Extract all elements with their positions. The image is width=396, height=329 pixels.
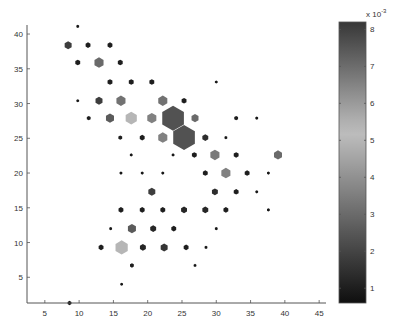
hexbin-marks <box>65 25 282 305</box>
hexbin-cell <box>182 98 187 104</box>
hexbin-cell <box>158 132 167 142</box>
hexbin-cell <box>147 113 156 123</box>
colorbar-scale-exponent: -3 <box>381 8 387 14</box>
x-tick-label: 40 <box>280 309 289 318</box>
hexbin-cell <box>212 188 218 195</box>
hexbin-cell <box>130 153 133 156</box>
colorbar-tick-label: 3 <box>370 210 375 219</box>
y-tick-label: 5 <box>19 273 24 282</box>
hexbin-cell <box>162 106 184 131</box>
hexbin-cell <box>234 152 239 158</box>
x-tick-label: 10 <box>75 309 84 318</box>
colorbar-scale-base: x 10 <box>366 10 382 19</box>
hexbin-cell <box>108 79 113 85</box>
y-tick-label: 10 <box>14 239 23 248</box>
hexbin-cell <box>96 97 103 105</box>
hexbin-cell <box>128 224 136 233</box>
hexbin-cell <box>150 225 156 232</box>
hexbin-cell <box>129 79 134 85</box>
hexbin-cell <box>161 171 164 174</box>
hexbin-cell <box>224 136 227 139</box>
colorbar: 12345678 x 10-3 <box>339 8 387 303</box>
hexbin-cell <box>65 41 72 49</box>
hexbin-cell <box>119 207 124 213</box>
hexbin-cell <box>161 243 168 251</box>
hexbin-cell <box>181 206 187 213</box>
colorbar-tick-label: 6 <box>370 99 375 108</box>
colorbar-gradient <box>339 22 366 303</box>
x-tick-label: 5 <box>43 309 48 318</box>
hexbin-cell <box>192 114 199 122</box>
hexbin-cell <box>173 125 195 150</box>
hexbin-cell <box>245 170 250 176</box>
x-tick-label: 35 <box>246 309 255 318</box>
hexbin-cell <box>149 79 154 85</box>
plot-area: 51015202530354045 510152025303540 <box>14 25 326 318</box>
hexbin-cell <box>172 153 175 156</box>
hexbin-cell <box>140 207 145 213</box>
hexbin-cell <box>140 135 145 141</box>
hexbin-cell <box>184 245 189 251</box>
hexbin-cell <box>192 152 197 158</box>
hexbin-cell <box>120 171 123 174</box>
hexbin-cell <box>130 263 134 267</box>
hexbin-cell <box>215 227 218 230</box>
hexbin-cell <box>202 206 208 213</box>
x-tick-label: 25 <box>178 309 187 318</box>
y-tick-label: 40 <box>14 30 23 39</box>
hexbin-cell <box>108 42 113 48</box>
hexbin-cell <box>205 246 208 249</box>
hexbin-cell <box>126 112 137 125</box>
hexbin-cell <box>274 150 282 159</box>
hexbin-cell <box>160 207 165 213</box>
hexbin-cell <box>221 168 230 178</box>
colorbar-scale-label: x 10-3 <box>366 8 387 19</box>
x-tick-label: 45 <box>315 309 324 318</box>
hexbin-cell <box>203 170 208 176</box>
x-tick-label: 15 <box>109 309 118 318</box>
colorbar-tick-label: 2 <box>370 247 375 256</box>
hexbin-cell <box>234 116 238 120</box>
hexbin-chart: 51015202530354045 510152025303540 123456… <box>0 0 396 329</box>
y-ticks: 510152025303540 <box>14 30 30 282</box>
hexbin-cell <box>118 60 123 66</box>
hexbin-cell <box>94 57 103 67</box>
hexbin-cell <box>120 283 123 286</box>
hexbin-cell <box>194 264 197 267</box>
x-tick-label: 30 <box>212 309 221 318</box>
hexbin-cell <box>267 208 270 211</box>
hexbin-cell <box>141 171 144 174</box>
colorbar-tick-label: 5 <box>370 136 375 145</box>
hexbin-cell <box>148 188 155 196</box>
hexbin-cell <box>116 240 128 254</box>
hexbin-cell <box>158 96 167 106</box>
y-tick-label: 20 <box>14 169 23 178</box>
hexbin-cell <box>76 99 79 102</box>
hexbin-cell <box>76 25 79 28</box>
hexbin-cell <box>118 135 122 139</box>
hexbin-cell <box>255 117 258 120</box>
hexbin-cell <box>99 245 104 251</box>
colorbar-tick-label: 7 <box>370 62 375 71</box>
hexbin-cell <box>215 80 218 83</box>
hexbin-cell <box>202 134 208 141</box>
hexbin-cell <box>234 189 239 195</box>
colorbar-tick-label: 1 <box>370 284 375 293</box>
y-tick-label: 30 <box>14 100 23 109</box>
hexbin-cell <box>116 96 125 106</box>
hexbin-cell <box>75 60 80 66</box>
hexbin-cell <box>255 190 258 193</box>
hexbin-cell <box>86 42 91 48</box>
hexbin-cell <box>106 114 114 123</box>
y-tick-label: 15 <box>14 204 23 213</box>
x-tick-label: 20 <box>143 309 152 318</box>
hexbin-cell <box>140 244 146 251</box>
y-tick-label: 25 <box>14 134 23 143</box>
hexbin-cell <box>171 226 176 232</box>
colorbar-tick-label: 8 <box>370 25 375 34</box>
hexbin-cell <box>109 227 112 230</box>
hexbin-cell <box>210 150 219 160</box>
colorbar-tick-label: 4 <box>370 173 375 182</box>
hexbin-cell <box>267 171 270 174</box>
hexbin-cell <box>87 116 91 120</box>
